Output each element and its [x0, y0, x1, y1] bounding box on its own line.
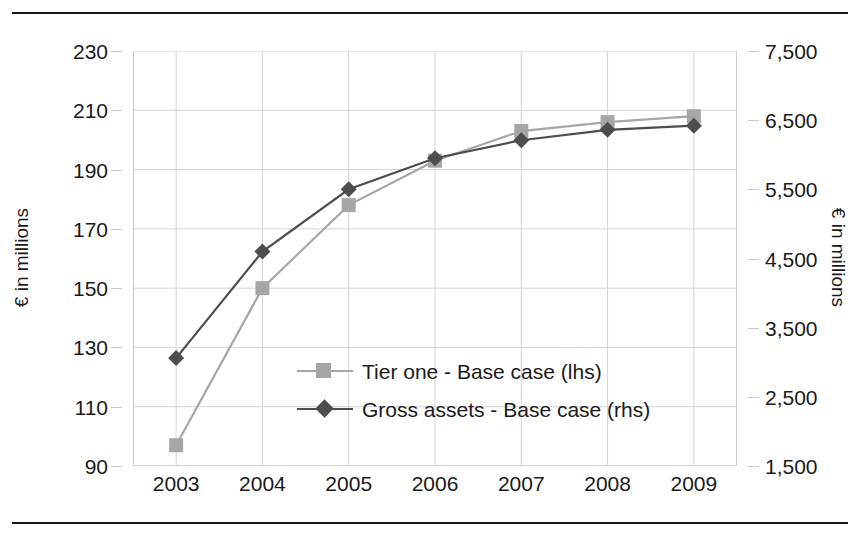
- y-axis-right-title: € in millions: [829, 158, 848, 358]
- y-axis-left-tick-mark: [111, 407, 122, 408]
- legend-label-tier-one: Tier one - Base case (lhs): [362, 361, 602, 382]
- y-axis-left: 90110130150170190210230: [48, 51, 122, 466]
- y-axis-right-tick-mark: [748, 466, 759, 467]
- x-axis-tick-label: 2006: [412, 473, 459, 494]
- legend-swatch-diamond-icon: [297, 399, 353, 419]
- legend-swatch-square-icon: [297, 361, 353, 381]
- legend-item-gross-assets[interactable]: Gross assets - Base case (rhs): [297, 390, 697, 428]
- data-point-marker-square[interactable]: [342, 198, 356, 212]
- y-axis-left-title: € in millions: [12, 158, 31, 358]
- chart-figure: 90110130150170190210230 € in millions 1,…: [0, 0, 859, 546]
- y-axis-right-tick-mark: [748, 120, 759, 121]
- y-axis-left-tick-mark: [111, 288, 122, 289]
- x-axis-tick-label: 2004: [239, 473, 286, 494]
- y-axis-right-tick-mark: [748, 397, 759, 398]
- chart-legend: Tier one - Base case (lhs) Gross assets …: [297, 352, 697, 428]
- x-axis-tick-label: 2003: [153, 473, 200, 494]
- y-axis-right-tick-mark: [748, 259, 759, 260]
- y-axis-right-tick-mark: [748, 189, 759, 190]
- y-axis-right: 1,5002,5003,5004,5005,5006,5007,500: [748, 51, 828, 466]
- legend-label-gross-assets: Gross assets - Base case (rhs): [362, 399, 650, 420]
- y-axis-left-tick-mark: [111, 347, 122, 348]
- y-axis-left-tick-mark: [111, 110, 122, 111]
- y-axis-left-tick-mark: [111, 170, 122, 171]
- data-point-marker-square[interactable]: [169, 438, 183, 452]
- top-divider-rule: [12, 12, 848, 14]
- y-axis-right-tick-mark: [748, 328, 759, 329]
- legend-item-tier-one[interactable]: Tier one - Base case (lhs): [297, 352, 697, 390]
- x-axis-tick-label: 2009: [670, 473, 717, 494]
- x-axis-tick-label: 2008: [584, 473, 631, 494]
- x-axis-tick-label: 2005: [325, 473, 372, 494]
- x-axis-tick-label: 2007: [498, 473, 545, 494]
- bottom-divider-rule: [12, 522, 848, 524]
- y-axis-right-tick-mark: [748, 51, 759, 52]
- y-axis-left-tick-mark: [111, 51, 122, 52]
- y-axis-left-tick-mark: [111, 466, 122, 467]
- y-axis-left-tick-mark: [111, 229, 122, 230]
- x-axis: 2003200420052006200720082009: [133, 473, 737, 507]
- data-point-marker-square[interactable]: [255, 281, 269, 295]
